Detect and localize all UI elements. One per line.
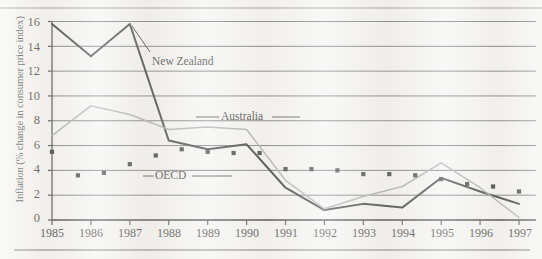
gridlines-group [52,22,536,221]
series-label-australia: Australia [221,110,263,122]
oecd-dot-1 [76,173,80,177]
oecd-dot-3 [128,162,132,166]
oecd-dot-10 [309,167,313,171]
oecd-dot-18 [517,189,521,193]
oecd-dot-2 [102,171,106,175]
oecd-dot-11 [335,168,339,172]
plot-area [0,0,542,259]
oecd-dot-9 [283,167,287,171]
oecd-dot-16 [465,182,469,186]
series-label-new-zealand: New Zealand [152,55,214,67]
oecd-dot-13 [387,172,391,176]
series-line-australia [52,106,519,218]
chart-figure: Inflation (% change in consumer price in… [0,0,542,259]
oecd-dot-8 [257,151,261,155]
series-label-oecd: OECD [155,169,186,181]
oecd-dot-5 [180,147,184,151]
oecd-dot-7 [232,151,236,155]
oecd-dot-0 [50,150,54,154]
oecd-dot-15 [439,177,443,181]
axis-ticks-group [48,22,519,226]
oecd-dot-4 [154,153,158,157]
oecd-dot-17 [491,184,495,188]
oecd-dot-6 [206,150,210,154]
oecd-dot-14 [413,173,417,177]
oecd-dot-12 [361,172,365,176]
